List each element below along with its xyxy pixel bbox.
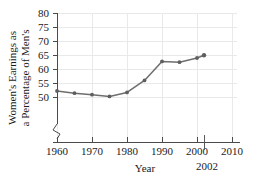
x-tick-labels: 1960 1970 1980 1990 2000 2010 xyxy=(46,145,244,157)
data-point-1960 xyxy=(55,89,59,93)
x-tick-label-1980: 1980 xyxy=(116,145,139,157)
horizontal-gridlines xyxy=(57,13,237,97)
chart-page: 80 75 70 65 60 55 50 1960 1970 1980 1990… xyxy=(0,0,253,185)
y-tick-label-50: 50 xyxy=(38,91,50,103)
data-point-1965 xyxy=(73,91,77,95)
data-point-2000 xyxy=(195,56,199,60)
y-tick-label-60: 60 xyxy=(38,63,50,75)
data-point-1980 xyxy=(125,91,129,95)
y-tick-label-55: 55 xyxy=(38,77,50,89)
data-point-1995 xyxy=(178,60,182,64)
y-tick-label-75: 75 xyxy=(38,21,50,33)
y-axis-title-line1: Women's Earnings as xyxy=(6,31,18,125)
y-tick-label-70: 70 xyxy=(38,35,50,47)
data-point-1975 xyxy=(108,95,112,99)
x-tick-label-2000: 2000 xyxy=(186,145,209,157)
x-tick-label-1960: 1960 xyxy=(46,145,69,157)
x-tick-label-1970: 1970 xyxy=(81,145,104,157)
data-point-1985 xyxy=(143,79,147,83)
y-tick-marks xyxy=(53,13,57,97)
line-chart: 80 75 70 65 60 55 50 1960 1970 1980 1990… xyxy=(0,0,253,185)
y-axis-title-line2: a Percentage of Men's xyxy=(19,30,31,127)
x-tick-marks xyxy=(57,137,232,142)
annotation-label-2002: 2002 xyxy=(196,160,218,172)
series-line-womens-earnings xyxy=(57,55,204,96)
y-tick-labels: 80 75 70 65 60 55 50 xyxy=(38,7,50,103)
y-tick-label-80: 80 xyxy=(38,7,50,19)
x-tick-label-1990: 1990 xyxy=(151,145,174,157)
data-point-1990 xyxy=(160,60,164,64)
x-tick-label-2010: 2010 xyxy=(221,145,244,157)
vertical-gridlines xyxy=(57,13,232,142)
data-point-2002 xyxy=(202,53,206,57)
x-axis-title: Year xyxy=(135,162,156,174)
data-point-1970 xyxy=(90,93,94,97)
y-tick-label-65: 65 xyxy=(38,49,50,61)
series-points xyxy=(55,53,206,98)
